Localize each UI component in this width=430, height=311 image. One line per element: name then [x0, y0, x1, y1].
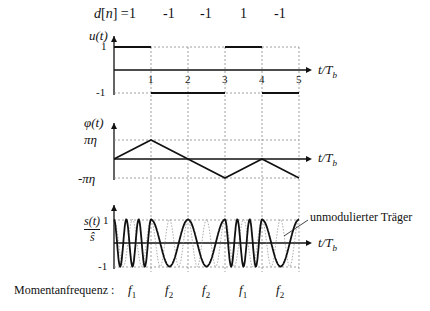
s-tick-minus1: -1 [98, 260, 107, 272]
phi-ylabel: φ(t) [84, 115, 103, 131]
u-xtick: 3 [222, 73, 228, 85]
unmodulated-carrier-label: unmodulierter Träger [310, 210, 412, 225]
u-tick-1: 1 [101, 40, 107, 52]
u-xtick: 5 [296, 73, 302, 85]
s-xlabel: t/Tb [318, 235, 337, 253]
instantaneous-frequency: f1 [239, 282, 247, 300]
phi-xlabel: t/Tb [318, 150, 337, 168]
u-xtick: 2 [185, 73, 191, 85]
instantaneous-frequency: f2 [165, 282, 173, 300]
momentanfrequenz-label: Momentanfrequenz : [14, 283, 114, 298]
bit-value: -1 [274, 6, 286, 22]
s-ylabel-num: s(t) [84, 214, 100, 230]
u-tick-minus1: -1 [96, 86, 105, 98]
phi-tick-pieta: πη [84, 132, 97, 148]
u-xtick: 4 [259, 73, 265, 85]
s-tick-1: 1 [103, 214, 109, 226]
dn-label: d[n] = [94, 6, 129, 22]
bit-value: -1 [163, 6, 175, 22]
instantaneous-frequency: f1 [128, 282, 136, 300]
bit-value: -1 [200, 6, 212, 22]
instantaneous-frequency: f2 [276, 282, 284, 300]
instantaneous-frequency: f2 [202, 282, 210, 300]
u-xlabel: t/Tb [318, 62, 337, 80]
bit-value: 1 [240, 6, 247, 22]
bit-value: 1 [129, 6, 136, 22]
diagram-canvas [0, 0, 430, 311]
phi-tick-minus-pieta: -πη [78, 171, 95, 187]
u-xtick: 1 [148, 73, 154, 85]
s-ylabel-den: ŝ [90, 230, 95, 245]
